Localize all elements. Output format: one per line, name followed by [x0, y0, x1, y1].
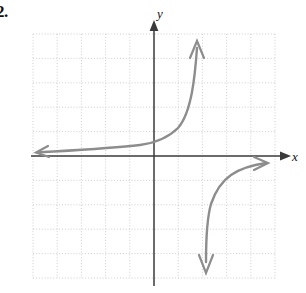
y-axis-label: y [155, 6, 163, 21]
y-axis-arrowhead [150, 20, 159, 31]
coordinate-plane-svg: x y −5 5 [0, 0, 306, 293]
curve-left-branch [37, 48, 197, 153]
problem-number-label: 2. [0, 2, 8, 22]
axes [31, 20, 291, 286]
curve-right-branch [206, 163, 266, 262]
x-axis-arrowhead [280, 152, 291, 161]
x-axis-label: x [291, 149, 298, 164]
graph-figure: 2. [0, 0, 306, 293]
